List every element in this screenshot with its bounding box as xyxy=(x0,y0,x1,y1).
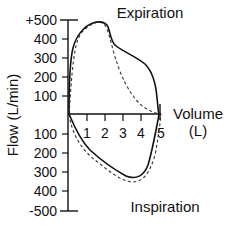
x-tick-label: 5 xyxy=(157,125,165,141)
y-ticks-upper xyxy=(62,39,68,96)
y-tick-label: -500 xyxy=(29,203,57,219)
y-tick-label: 200 xyxy=(34,145,58,161)
x-tick-label: 2 xyxy=(101,125,109,141)
y-tick-label: 400 xyxy=(34,31,58,47)
y-tick-label: +500 xyxy=(25,12,57,28)
y-tick-label: 300 xyxy=(34,164,58,180)
y-tick-label: 100 xyxy=(34,126,58,142)
y-tick-label: 100 xyxy=(34,88,58,104)
measured-inspiration-curve xyxy=(69,114,159,178)
flow-volume-chart: +500 400 300 200 100 100 200 300 400 -50… xyxy=(0,0,232,227)
x-axis-title-line1: Volume xyxy=(173,105,223,122)
x-ticks xyxy=(87,114,141,121)
x-tick-label: 1 xyxy=(83,125,91,141)
y-tick-label: 400 xyxy=(34,183,58,199)
y-tick-label: 300 xyxy=(34,50,58,66)
reference-expiration-curve xyxy=(69,22,160,114)
x-axis-title-line2: (L) xyxy=(189,122,207,139)
y-axis-title: Flow (L/min) xyxy=(4,74,21,157)
expiration-label: Expiration xyxy=(117,4,184,21)
measured-expiration-curve xyxy=(69,22,159,114)
inspiration-label: Inspiration xyxy=(130,198,199,215)
y-tick-label: 200 xyxy=(34,69,58,85)
x-tick-label: 4 xyxy=(137,125,145,141)
y-ticks-lower xyxy=(62,134,68,191)
x-tick-label: 3 xyxy=(119,125,127,141)
